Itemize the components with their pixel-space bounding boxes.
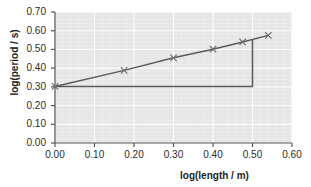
y-tick-label: 0.50 [16, 44, 46, 54]
y-tick-label: 0.00 [16, 138, 46, 148]
y-tick-label: 0.10 [16, 119, 46, 129]
x-tick-label: 0.10 [78, 150, 112, 160]
chart-figure: 0.000.100.200.300.400.500.600.70 0.000.1… [0, 0, 311, 187]
y-tick-label: 0.40 [16, 63, 46, 73]
y-tick-label: 0.60 [16, 26, 46, 36]
x-tick-label: 0.30 [157, 150, 191, 160]
y-tick-label: 0.20 [16, 101, 46, 111]
y-axis-title: log(period / s) [9, 13, 20, 113]
x-tick-label: 0.50 [236, 150, 270, 160]
y-tick-label: 0.30 [16, 82, 46, 92]
x-axis-ticks [55, 143, 292, 147]
x-tick-label: 0.00 [38, 150, 72, 160]
x-tick-label: 0.20 [117, 150, 151, 160]
x-tick-label: 0.60 [275, 150, 309, 160]
x-axis-title: log(length / m) [180, 170, 249, 181]
x-tick-label: 0.40 [196, 150, 230, 160]
y-tick-label: 0.70 [16, 7, 46, 17]
